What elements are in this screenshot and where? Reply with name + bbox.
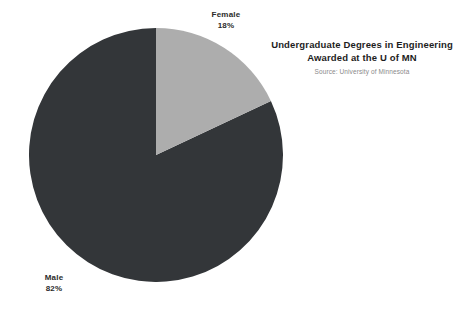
chart-title-line-2: Awarded at the U of MN bbox=[256, 51, 468, 64]
chart-title-line-1: Undergraduate Degrees in Engineering bbox=[256, 38, 468, 51]
chart-source-note: Source: University of Minnesota bbox=[256, 67, 468, 76]
pie-label-male-value: 82% bbox=[26, 283, 82, 294]
pie-label-female-name: Female bbox=[196, 9, 256, 20]
pie-label-female: Female 18% bbox=[196, 9, 256, 31]
pie-label-female-value: 18% bbox=[196, 20, 256, 31]
pie-svg bbox=[29, 28, 283, 282]
pie-chart-graphic bbox=[29, 28, 283, 282]
pie-label-male-name: Male bbox=[26, 272, 82, 283]
pie-label-male: Male 82% bbox=[26, 272, 82, 294]
pie-chart-figure: Female 18% Male 82% Undergraduate Degree… bbox=[0, 0, 469, 313]
chart-title-block: Undergraduate Degrees in Engineering Awa… bbox=[256, 38, 468, 76]
